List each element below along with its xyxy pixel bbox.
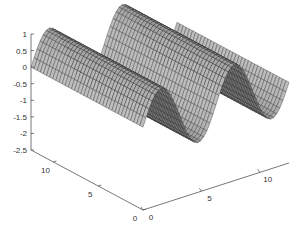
- y-axis: [31, 150, 143, 210]
- tick-mark: [98, 185, 101, 186]
- surface-mesh: [31, 4, 289, 142]
- x-tick-label: 0: [149, 213, 154, 222]
- x-axis: [143, 163, 289, 210]
- surface-plot: 10.50-0.5-1-1.5-2-2.5 0510 0510: [0, 0, 301, 228]
- y-tick-label: 5: [88, 190, 93, 199]
- z-tick-label: -2.5: [13, 146, 27, 155]
- z-tick-label: 0.5: [16, 47, 28, 56]
- y-tick-labels: 0510: [41, 161, 146, 223]
- tick-mark: [53, 161, 56, 162]
- z-tick-label: -1.5: [13, 113, 27, 122]
- z-tick-label: 1: [23, 30, 28, 39]
- y-tick-label: 10: [41, 166, 50, 175]
- z-tick-label: -0.5: [13, 80, 27, 89]
- tick-mark: [199, 188, 201, 191]
- z-tick-label: 0: [23, 63, 28, 72]
- y-tick-label: 0: [133, 214, 138, 223]
- tick-mark: [143, 209, 146, 210]
- x-tick-label: 5: [207, 194, 212, 203]
- x-tick-label: 10: [263, 175, 272, 184]
- x-tick-labels: 0510: [141, 169, 273, 222]
- z-tick-label: -2: [20, 129, 28, 138]
- z-tick-label: -1: [20, 96, 28, 105]
- tick-mark: [258, 169, 260, 172]
